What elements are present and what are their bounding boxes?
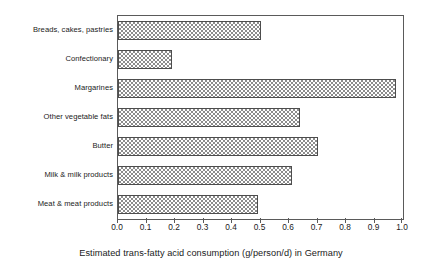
x-axis-tick-label: 0.5 <box>247 222 273 233</box>
x-axis-tick-label: 0.9 <box>361 222 387 233</box>
bar-chart: Breads, cakes, pastriesConfectionaryMarg… <box>0 0 422 270</box>
bar <box>118 137 318 156</box>
x-axis-tick-label: 0.1 <box>133 222 159 233</box>
bar <box>118 166 292 185</box>
bars-container <box>118 16 403 219</box>
category-axis-labels: Breads, cakes, pastriesConfectionaryMarg… <box>0 15 113 218</box>
x-axis-tick-label: 1.0 <box>389 222 415 233</box>
x-axis-tick-label: 0.3 <box>190 222 216 233</box>
category-label: Margarines <box>75 83 113 92</box>
x-axis-tick-label: 0.0 <box>104 222 130 233</box>
bar <box>118 50 172 69</box>
category-label: Breads, cakes, pastries <box>33 25 113 34</box>
x-axis-tick-label: 0.7 <box>304 222 330 233</box>
bar <box>118 79 396 98</box>
x-axis-tick-label: 0.6 <box>275 222 301 233</box>
bar <box>118 195 258 214</box>
bar <box>118 21 261 40</box>
x-axis-tick-labels: 0.00.10.20.30.40.50.60.70.80.91.0 <box>0 222 422 236</box>
bar <box>118 108 300 127</box>
x-axis-title: Estimated trans-fatty acid consumption (… <box>0 247 422 260</box>
x-axis-tick-label: 0.4 <box>218 222 244 233</box>
category-label: Meat & meat products <box>38 199 113 208</box>
category-label: Confectionary <box>65 54 113 63</box>
plot-area <box>117 15 404 220</box>
x-axis-tick-label: 0.8 <box>332 222 358 233</box>
category-label: Milk & milk products <box>44 170 113 179</box>
category-label: Butter <box>92 141 113 150</box>
category-label: Other vegetable fats <box>44 112 113 121</box>
x-axis-tick-label: 0.2 <box>161 222 187 233</box>
